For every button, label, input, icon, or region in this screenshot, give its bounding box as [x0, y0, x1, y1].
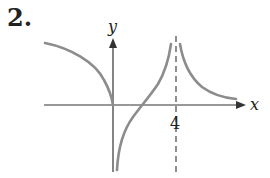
curve-left-branch: [45, 43, 113, 105]
y-axis-arrow-icon: [109, 38, 117, 48]
x-axis-label: x: [250, 95, 259, 114]
x-axis-arrow-icon: [236, 101, 246, 109]
y-axis-label: y: [107, 17, 118, 36]
function-graph: x y 4: [0, 0, 270, 178]
x-tick-label-4: 4: [170, 114, 180, 133]
curve-right-branch: [180, 44, 236, 99]
curve-middle-branch: [117, 44, 171, 170]
